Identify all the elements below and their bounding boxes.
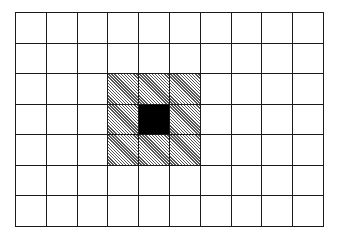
grid-cell [108, 13, 139, 44]
grid-cell [78, 44, 109, 75]
grid-cell [232, 166, 263, 197]
grid-cell [201, 135, 232, 166]
grid-cell [47, 74, 78, 105]
grid-cell [262, 105, 293, 136]
grid-cell [78, 196, 109, 227]
grid-cell [47, 135, 78, 166]
hatched-neighbor-cell [108, 105, 139, 136]
grid-cell [262, 44, 293, 75]
hatched-neighbor-cell [170, 105, 201, 136]
grid-cell [262, 196, 293, 227]
hatched-neighbor-cell [108, 135, 139, 166]
grid-cell [293, 196, 324, 227]
grid-cell [16, 196, 47, 227]
grid-cell [47, 44, 78, 75]
grid-cell [47, 166, 78, 197]
grid-cell [47, 105, 78, 136]
grid-cell [16, 44, 47, 75]
grid-cell [232, 105, 263, 136]
grid-cell [16, 105, 47, 136]
grid-cell [232, 44, 263, 75]
grid-cell [293, 44, 324, 75]
grid-cell [108, 166, 139, 197]
grid-cell [232, 135, 263, 166]
grid-cell [139, 44, 170, 75]
grid-cell [262, 13, 293, 44]
grid-cell [201, 166, 232, 197]
grid-cell [201, 44, 232, 75]
grid-cell [293, 166, 324, 197]
hatched-neighbor-cell [108, 74, 139, 105]
grid-cell [78, 74, 109, 105]
hatched-neighbor-cell [170, 74, 201, 105]
hatched-neighbor-cell [139, 135, 170, 166]
grid-cell [232, 196, 263, 227]
hatched-neighbor-cell [139, 74, 170, 105]
cell-grid [15, 12, 324, 227]
grid-cell [293, 105, 324, 136]
grid-cell [170, 196, 201, 227]
hatched-neighbor-cell [170, 135, 201, 166]
grid-cell [47, 13, 78, 44]
grid-cell [78, 13, 109, 44]
grid-cell [201, 74, 232, 105]
grid-cell [293, 74, 324, 105]
grid-cell [170, 166, 201, 197]
grid-cell [232, 13, 263, 44]
grid-cell [232, 74, 263, 105]
grid-cell [78, 166, 109, 197]
grid-cell [262, 166, 293, 197]
grid-cell [293, 135, 324, 166]
grid-cell [201, 13, 232, 44]
filled-center-cell [139, 105, 170, 136]
grid-cell [262, 135, 293, 166]
grid-cell [78, 135, 109, 166]
grid-cell [16, 13, 47, 44]
grid-cell [139, 166, 170, 197]
grid-cell [108, 196, 139, 227]
grid-cell [47, 196, 78, 227]
grid-cell [108, 44, 139, 75]
grid-cell [139, 196, 170, 227]
grid-cell [16, 74, 47, 105]
grid-cell [170, 13, 201, 44]
grid-cell [16, 166, 47, 197]
grid-cell [293, 13, 324, 44]
grid-cell [16, 135, 47, 166]
grid-cell [139, 13, 170, 44]
grid-cell [201, 196, 232, 227]
grid-cell [262, 74, 293, 105]
grid-cell [78, 105, 109, 136]
grid-cell [201, 105, 232, 136]
grid-cell [170, 44, 201, 75]
